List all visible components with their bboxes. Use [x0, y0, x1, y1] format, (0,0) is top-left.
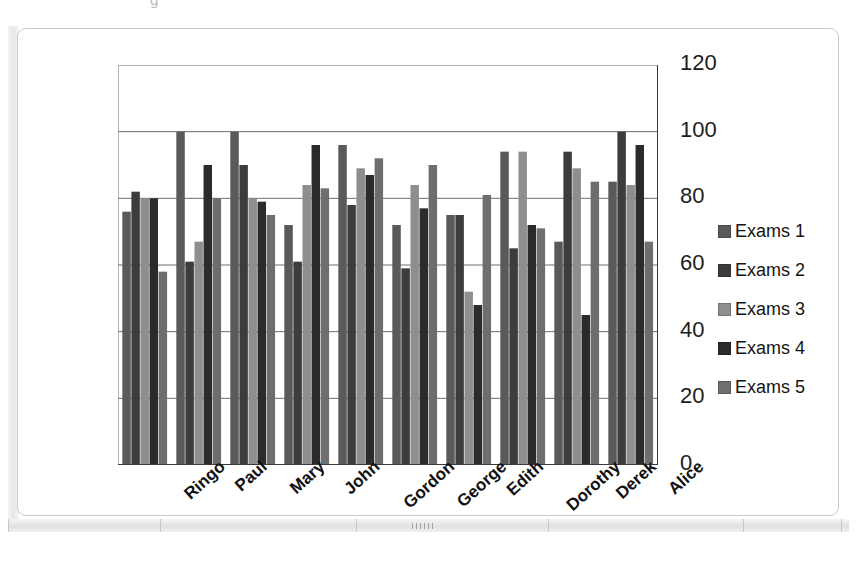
- cropped-text-above-chart: g: [150, 0, 159, 8]
- bar-ringo-exams-5[interactable]: [159, 272, 167, 465]
- legend-label-5: Exams 5: [735, 377, 805, 398]
- bar-group-john: [284, 145, 329, 465]
- legend-swatch-exams-3: [718, 303, 731, 316]
- x-axis-label-edith: Edith: [503, 457, 548, 500]
- bar-dorothy-exams-2[interactable]: [509, 248, 517, 465]
- bar-mary-exams-1[interactable]: [230, 132, 238, 465]
- bar-dorothy-exams-3[interactable]: [518, 152, 526, 465]
- bar-ringo-exams-4[interactable]: [150, 198, 158, 465]
- bar-ringo-exams-1[interactable]: [122, 212, 130, 465]
- bar-george-exams-2[interactable]: [401, 268, 409, 465]
- y-axis-label-120: 120: [680, 50, 726, 76]
- x-axis-label-paul: Paul: [231, 457, 271, 496]
- bar-george-exams-4[interactable]: [420, 208, 428, 465]
- bar-group-mary: [230, 132, 275, 465]
- bar-george-exams-3[interactable]: [410, 185, 418, 465]
- x-axis-category-labels: RingoPaulMaryJohnGordonGeorgeEdithDoroth…: [118, 457, 658, 537]
- bar-paul-exams-3[interactable]: [194, 242, 202, 465]
- bar-ringo-exams-2[interactable]: [131, 192, 139, 465]
- x-axis-label-alice: Alice: [664, 457, 708, 499]
- legend-item-exams-2[interactable]: Exams 2: [718, 251, 838, 290]
- bar-edith-exams-4[interactable]: [474, 305, 482, 465]
- bar-derek-exams-3[interactable]: [572, 168, 580, 465]
- x-axis-label-mary: Mary: [286, 457, 329, 498]
- bar-edith-exams-3[interactable]: [464, 292, 472, 465]
- bar-mary-exams-3[interactable]: [248, 198, 256, 465]
- bar-derek-exams-5[interactable]: [591, 182, 599, 465]
- legend-label-2: Exams 2: [735, 260, 805, 281]
- scrollbar-tick-4: [743, 519, 744, 532]
- bar-paul-exams-1[interactable]: [176, 132, 184, 465]
- bar-group-edith: [446, 195, 491, 465]
- bar-mary-exams-2[interactable]: [239, 165, 247, 465]
- bar-derek-exams-2[interactable]: [563, 152, 571, 465]
- legend-item-exams-1[interactable]: Exams 1: [718, 212, 838, 251]
- bar-gordon-exams-3[interactable]: [356, 168, 364, 465]
- x-axis-label-derek: Derek: [612, 457, 661, 503]
- bar-gordon-exams-1[interactable]: [338, 145, 346, 465]
- bar-group-paul: [176, 132, 221, 465]
- legend-swatch-exams-1: [718, 225, 731, 238]
- bar-edith-exams-1[interactable]: [446, 215, 454, 465]
- bar-group-gordon: [338, 145, 383, 465]
- bar-group-alice: [608, 132, 653, 465]
- legend-label-1: Exams 1: [735, 221, 805, 242]
- bar-alice-exams-2[interactable]: [617, 132, 625, 465]
- bar-george-exams-1[interactable]: [392, 225, 400, 465]
- bar-gordon-exams-4[interactable]: [366, 175, 374, 465]
- bar-derek-exams-1[interactable]: [554, 242, 562, 465]
- bar-alice-exams-4[interactable]: [636, 145, 644, 465]
- bar-mary-exams-5[interactable]: [267, 215, 275, 465]
- y-axis-label-100: 100: [680, 117, 726, 143]
- bar-john-exams-5[interactable]: [321, 188, 329, 465]
- bar-alice-exams-5[interactable]: [645, 242, 653, 465]
- x-axis-label-ringo: Ringo: [180, 457, 229, 504]
- scrollbar-tick-0: [8, 519, 9, 532]
- chart-legend: Exams 1Exams 2Exams 3Exams 4Exams 5: [718, 212, 838, 407]
- bar-john-exams-2[interactable]: [293, 262, 301, 465]
- x-axis-label-john: John: [340, 457, 384, 499]
- bar-john-exams-3[interactable]: [302, 185, 310, 465]
- bar-group-ringo: [122, 192, 167, 465]
- legend-swatch-exams-2: [718, 264, 731, 277]
- bar-gordon-exams-5[interactable]: [375, 158, 383, 465]
- bar-edith-exams-2[interactable]: [455, 215, 463, 465]
- y-axis-label-80: 80: [680, 183, 726, 209]
- plot-area: [118, 65, 658, 465]
- bar-dorothy-exams-4[interactable]: [528, 225, 536, 465]
- bar-paul-exams-2[interactable]: [185, 262, 193, 465]
- bar-dorothy-exams-1[interactable]: [500, 152, 508, 465]
- legend-swatch-exams-5: [718, 381, 731, 394]
- bar-john-exams-4[interactable]: [312, 145, 320, 465]
- bar-derek-exams-4[interactable]: [582, 315, 590, 465]
- legend-label-4: Exams 4: [735, 338, 805, 359]
- bar-dorothy-exams-5[interactable]: [537, 228, 545, 465]
- bar-alice-exams-1[interactable]: [608, 182, 616, 465]
- bar-gordon-exams-2[interactable]: [347, 205, 355, 465]
- bar-paul-exams-4[interactable]: [204, 165, 212, 465]
- x-axis-label-george: George: [453, 457, 511, 512]
- bar-ringo-exams-3[interactable]: [140, 198, 148, 465]
- x-axis-label-gordon: Gordon: [399, 457, 458, 513]
- bar-george-exams-5[interactable]: [429, 165, 437, 465]
- bar-edith-exams-5[interactable]: [483, 195, 491, 465]
- legend-item-exams-4[interactable]: Exams 4: [718, 329, 838, 368]
- scrollbar-tick-5: [841, 519, 842, 532]
- legend-item-exams-3[interactable]: Exams 3: [718, 290, 838, 329]
- bar-paul-exams-5[interactable]: [213, 198, 221, 465]
- bar-alice-exams-3[interactable]: [626, 185, 634, 465]
- screenshot-root: g 020406080100120 RingoPaulMaryJohnGordo…: [0, 0, 857, 570]
- chart-object[interactable]: 020406080100120 RingoPaulMaryJohnGordonG…: [17, 28, 839, 516]
- bar-group-george: [392, 165, 437, 465]
- bar-mary-exams-4[interactable]: [258, 202, 266, 465]
- bar-john-exams-1[interactable]: [284, 225, 292, 465]
- legend-swatch-exams-4: [718, 342, 731, 355]
- legend-label-3: Exams 3: [735, 299, 805, 320]
- bar-chart-svg: [118, 65, 658, 465]
- legend-item-exams-5[interactable]: Exams 5: [718, 368, 838, 407]
